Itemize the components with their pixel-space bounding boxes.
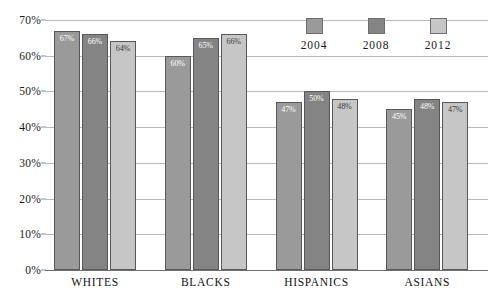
bar-value-label: 45% [387, 113, 411, 121]
y-axis-tick-label: 20% [19, 193, 41, 205]
legend-swatch [368, 18, 385, 34]
y-axis-tick-label: 10% [19, 228, 41, 240]
y-axis: 0%10%20%30%40%50%60%70% [0, 20, 41, 270]
bar[interactable]: 48% [414, 99, 440, 270]
bar-value-label: 50% [305, 95, 329, 103]
y-axis-tick-label: 0% [25, 264, 41, 276]
bar[interactable]: 65% [193, 38, 219, 270]
bar-value-label: 47% [443, 106, 467, 114]
bar-value-label: 66% [83, 38, 107, 46]
bar[interactable]: 64% [110, 41, 136, 270]
legend-item[interactable]: 2008 [348, 18, 404, 51]
bar[interactable]: 66% [82, 34, 108, 270]
bar-value-label: 64% [111, 45, 135, 53]
legend-item[interactable]: 2004 [286, 18, 342, 51]
x-axis-category-label: HISPANICS [284, 276, 349, 288]
axis-baseline [45, 270, 488, 271]
bar-value-label: 66% [222, 38, 246, 46]
x-axis-category-label: BLACKS [181, 276, 231, 288]
bar[interactable]: 60% [165, 56, 191, 270]
y-axis-tick-label: 40% [19, 121, 41, 133]
bar[interactable]: 67% [54, 31, 80, 270]
legend-label: 2004 [286, 39, 342, 51]
bar-value-label: 60% [166, 60, 190, 68]
legend-label: 2012 [410, 39, 466, 51]
bar-group: 67%66%64% [45, 20, 156, 270]
bar[interactable]: 47% [276, 102, 302, 270]
x-axis-category-label: ASIANS [404, 276, 450, 288]
legend-swatch [430, 18, 447, 34]
y-axis-tick-label: 50% [19, 85, 41, 97]
y-axis-tick-label: 60% [19, 50, 41, 62]
bar-value-label: 48% [415, 103, 439, 111]
bar[interactable]: 45% [386, 109, 412, 270]
bar[interactable]: 50% [304, 91, 330, 270]
bar-group: 60%65%66% [156, 20, 267, 270]
legend-swatch [306, 18, 323, 34]
y-axis-tick-label: 30% [19, 157, 41, 169]
bar-value-label: 65% [194, 42, 218, 50]
x-axis-labels: WHITESBLACKSHISPANICSASIANS [45, 276, 488, 296]
y-axis-tick-label: 70% [19, 14, 41, 26]
chart-legend: 200420082012 [286, 18, 466, 62]
bar-value-label: 67% [55, 35, 79, 43]
legend-item[interactable]: 2012 [410, 18, 466, 51]
x-axis-category-label: WHITES [71, 276, 119, 288]
bar-value-label: 48% [333, 103, 357, 111]
bar[interactable]: 66% [221, 34, 247, 270]
legend-label: 2008 [348, 39, 404, 51]
bar-value-label: 47% [277, 106, 301, 114]
bar-chart: 0%10%20%30%40%50%60%70% 67%66%64%60%65%6… [0, 0, 499, 301]
bar[interactable]: 47% [442, 102, 468, 270]
bar[interactable]: 48% [332, 99, 358, 270]
